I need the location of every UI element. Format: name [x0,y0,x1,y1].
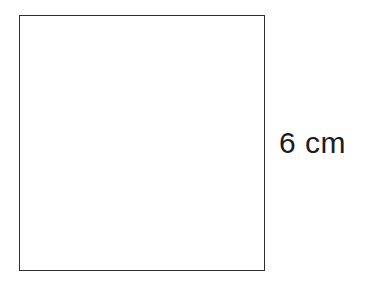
square-shape [19,15,265,271]
side-length-label: 6 cm [279,128,346,158]
geometry-diagram: 6 cm [0,0,367,281]
